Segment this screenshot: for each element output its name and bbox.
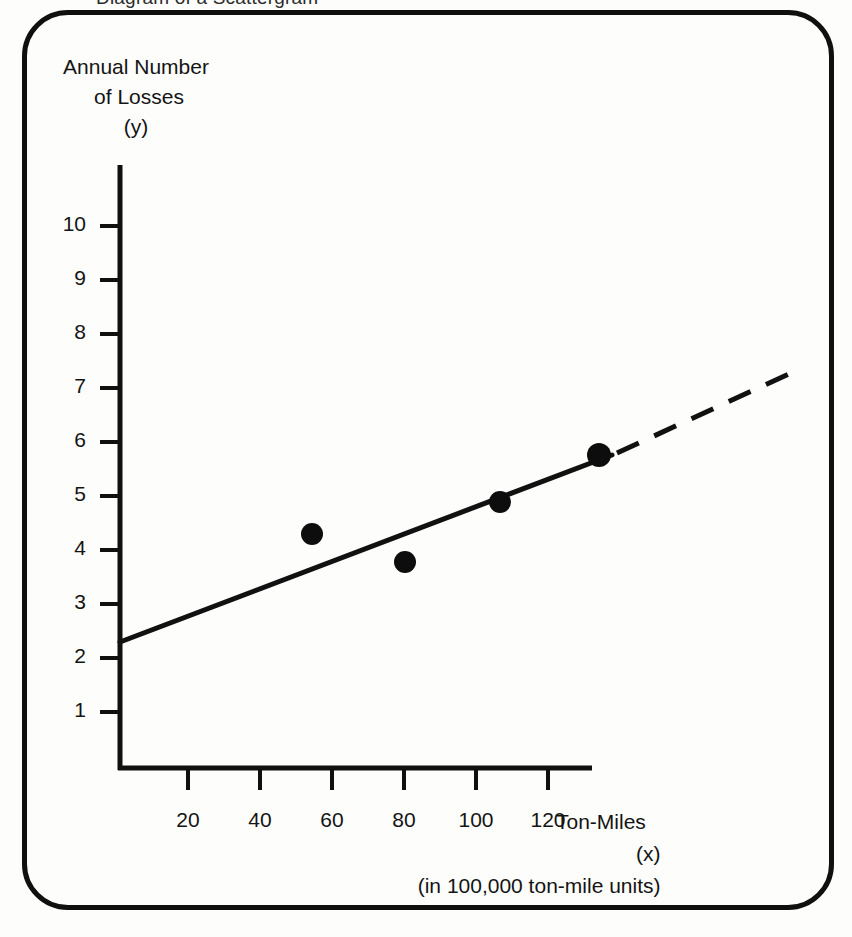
data-point bbox=[394, 551, 416, 573]
y-tick-label-7: 7 bbox=[42, 374, 86, 398]
x-tick-label-40: 40 bbox=[232, 808, 288, 832]
figure-page: Diagram of a Scattergram Annual Number o… bbox=[0, 0, 852, 937]
y-tick-label-9: 9 bbox=[42, 266, 86, 290]
data-point bbox=[301, 523, 323, 545]
y-tick-label-1: 1 bbox=[42, 698, 86, 722]
x-tick-label-80: 80 bbox=[376, 808, 432, 832]
data-point bbox=[489, 491, 511, 513]
x-axis-title-line-3: (in 100,000 ton-mile units) bbox=[294, 870, 661, 902]
y-tick-label-4: 4 bbox=[42, 536, 86, 560]
x-axis-title-line-1: Ton-Miles bbox=[556, 806, 661, 838]
y-tick-label-10: 10 bbox=[42, 212, 86, 236]
x-axis-title-line-2: (x) bbox=[556, 838, 661, 870]
scatter-plot: Annual Number of Losses (y) bbox=[0, 0, 852, 937]
y-tick-label-5: 5 bbox=[42, 482, 86, 506]
y-tick-label-8: 8 bbox=[42, 320, 86, 344]
y-tick-label-6: 6 bbox=[42, 428, 86, 452]
x-tick-label-20: 20 bbox=[160, 808, 216, 832]
y-tick-label-2: 2 bbox=[42, 644, 86, 668]
y-tick-label-3: 3 bbox=[42, 590, 86, 614]
x-tick-label-60: 60 bbox=[304, 808, 360, 832]
plot-canvas bbox=[0, 0, 852, 937]
x-axis-title: Ton-Miles (x) (in 100,000 ton-mile units… bbox=[556, 806, 661, 902]
x-tick-label-100: 100 bbox=[448, 808, 504, 832]
regression-line bbox=[120, 455, 612, 642]
extrapolation-line-dashed bbox=[617, 372, 793, 453]
data-point bbox=[587, 443, 611, 467]
